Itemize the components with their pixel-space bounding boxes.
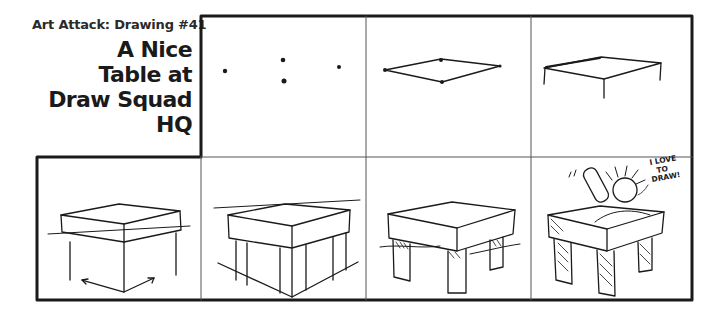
speech-bubble: I LOVE TO DRAW! xyxy=(649,153,681,184)
svg-text:DRAW!: DRAW! xyxy=(651,170,681,184)
panel-6-table xyxy=(380,202,520,293)
panel-2-rhombus xyxy=(383,58,502,84)
panel-3-table xyxy=(544,57,661,98)
panel-5-box xyxy=(214,200,360,297)
panel-7-cartoon: I LOVE TO DRAW! xyxy=(548,153,681,296)
panel-4-box xyxy=(48,204,190,292)
comic-panels: I LOVE TO DRAW! xyxy=(0,0,722,314)
panel-1-dots xyxy=(223,58,341,84)
